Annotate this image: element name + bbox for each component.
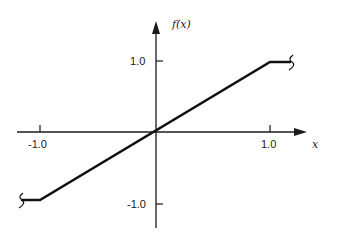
x-axis-arrow-icon <box>294 128 307 136</box>
y-axis-arrow-icon <box>152 21 160 34</box>
y-tick-label-neg: -1.0 <box>127 198 146 210</box>
x-tick-label-neg: -1.0 <box>28 138 47 150</box>
chart: f(x) x -1.0 1.0 1.0 -1.0 <box>0 0 337 246</box>
x-axis-label: x <box>312 138 319 151</box>
x-tick-label-pos: 1.0 <box>261 138 276 150</box>
y-tick-label-pos: 1.0 <box>130 55 145 67</box>
y-axis-label: f(x) <box>171 18 191 31</box>
